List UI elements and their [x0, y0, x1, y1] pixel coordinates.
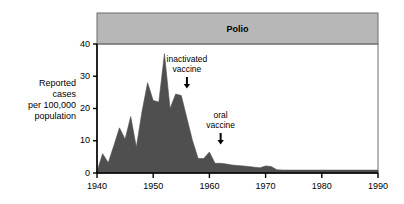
x-tick-label: 1940 — [77, 182, 117, 191]
y-axis-label: Reported cases per 100,000 population — [8, 78, 76, 122]
y-tick-label: 40 — [70, 40, 90, 49]
x-tick-label: 1980 — [302, 182, 342, 191]
chart-title: Polio — [97, 25, 378, 34]
x-tick-label: 1970 — [246, 182, 286, 191]
x-tick-label: 1950 — [133, 182, 173, 191]
arrow-head-inactivated-vaccine — [184, 84, 190, 89]
y-tick-label: 30 — [70, 72, 90, 81]
y-tick-label: 0 — [70, 169, 90, 178]
annotation-label-inactivated-vaccine: inactivated vaccine — [147, 54, 227, 74]
annotation-label-oral-vaccine: oral vaccine — [181, 110, 261, 130]
x-tick-label: 1990 — [358, 182, 398, 191]
arrow-head-oral-vaccine — [217, 140, 223, 145]
y-tick-label: 20 — [70, 104, 90, 113]
polio-chart: Polio Reported cases per 100,000 populat… — [0, 0, 404, 204]
x-tick-label: 1960 — [189, 182, 229, 191]
y-tick-label: 10 — [70, 136, 90, 145]
